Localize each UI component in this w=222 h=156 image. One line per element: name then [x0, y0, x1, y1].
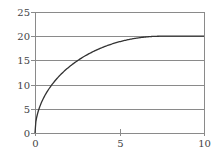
- y-tick-label: 10: [17, 80, 30, 91]
- x-tick-label: 0: [32, 138, 38, 149]
- y-tick-label: 5: [24, 104, 30, 115]
- x-axis-ticks: 0510: [32, 129, 211, 149]
- horizontal-gridlines: [35, 13, 204, 134]
- data-curve: [35, 36, 204, 133]
- y-tick-label: 0: [24, 128, 30, 139]
- x-tick-label: 10: [198, 138, 211, 149]
- y-tick-label: 20: [17, 31, 30, 42]
- y-axis-ticks: 0510152025: [17, 7, 35, 139]
- y-tick-label: 15: [17, 55, 30, 66]
- x-tick-label: 5: [117, 138, 123, 149]
- line-chart: 0510152025 0510: [0, 0, 222, 156]
- axes: [36, 12, 205, 133]
- y-tick-label: 25: [17, 7, 30, 18]
